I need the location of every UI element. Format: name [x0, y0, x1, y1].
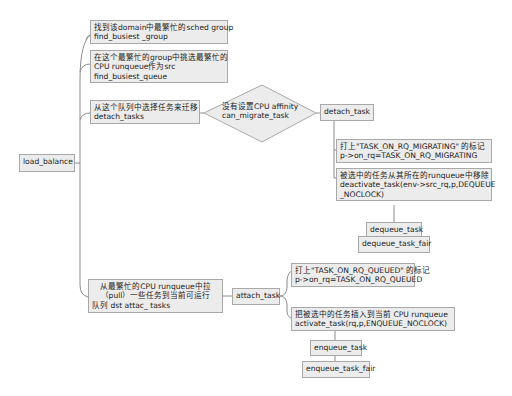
detach-mark-migrating[interactable]: 打上"TASK_ON_RQ_MIGRATING" 的标记 p->on_rq=TA…	[336, 139, 492, 163]
node-attach-task[interactable]: attach_task	[232, 288, 280, 305]
attach-mark-queued[interactable]: 打上"TASK_ON_RQ_QUEUED" 的标记 p->on_rq=TASK_…	[291, 263, 415, 287]
step-detach-tasks[interactable]: 从这个队列中选择任务来迁移 detach_tasks	[90, 100, 200, 124]
node-detach-task[interactable]: detach_task	[320, 104, 374, 121]
attach-activate-task[interactable]: 把被选中的任务插入到当前 CPU runqueue activate_task(…	[291, 307, 455, 331]
node-dequeue-task-fair[interactable]: dequeue_task_fair	[358, 236, 430, 253]
step-attach-tasks[interactable]: 从最繁忙的CPU runqueue中拉 （pull）一些任务到当前可运行 队列 …	[88, 279, 223, 313]
step-find-busiest-queue[interactable]: 在这个最繁忙的group中挑选最繁忙的 CPU runqueue作为src fi…	[90, 50, 228, 83]
node-enqueue-task[interactable]: enqueue_task	[310, 340, 362, 356]
root-node-load-balance[interactable]: load_balance	[19, 154, 75, 172]
node-enqueue-task-fair[interactable]: enqueue_task_fair	[302, 361, 370, 378]
decision-can-migrate-task[interactable]: 没有设置CPU affinity can_migrate_task	[222, 102, 298, 121]
detach-deactivate-task[interactable]: 被选中的任务从其所在的runqueue中移除 deactivate_task(e…	[336, 168, 492, 201]
step-find-busiest-group[interactable]: 找到该domain中最繁忙的sched group find_busiest _…	[90, 20, 228, 44]
